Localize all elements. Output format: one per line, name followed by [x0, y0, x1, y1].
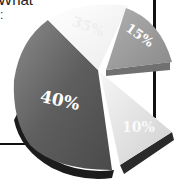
pie-chart: 40% 35% 15% 10% — [0, 0, 179, 180]
label-10: 10% — [122, 119, 155, 135]
